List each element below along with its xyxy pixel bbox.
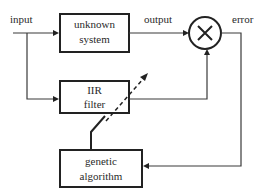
genetic-algorithm-label-line1: genetic [85,155,117,167]
output-label: output [144,13,172,25]
iir-filter-label-line2: filter [84,98,106,110]
iir-input-arrowhead [53,96,59,102]
ga-control-wire [91,116,105,150]
iir-filter-label-line1: IIR [87,84,102,96]
adaptation-arrowhead [140,73,148,81]
input-arrowhead [53,30,59,36]
input-label: input [10,13,33,25]
error-label: error [232,13,254,25]
error-arrowhead [143,163,149,169]
genetic-algorithm-label-line2: algorithm [80,170,123,182]
system-identification-diagram: input unknown system output error IIR fi… [0,0,267,193]
unknown-system-label-line2: system [79,33,110,45]
iir-output-wire [129,52,207,99]
input-branch-wire [27,33,56,99]
unknown-system-label-line1: unknown [74,18,115,30]
